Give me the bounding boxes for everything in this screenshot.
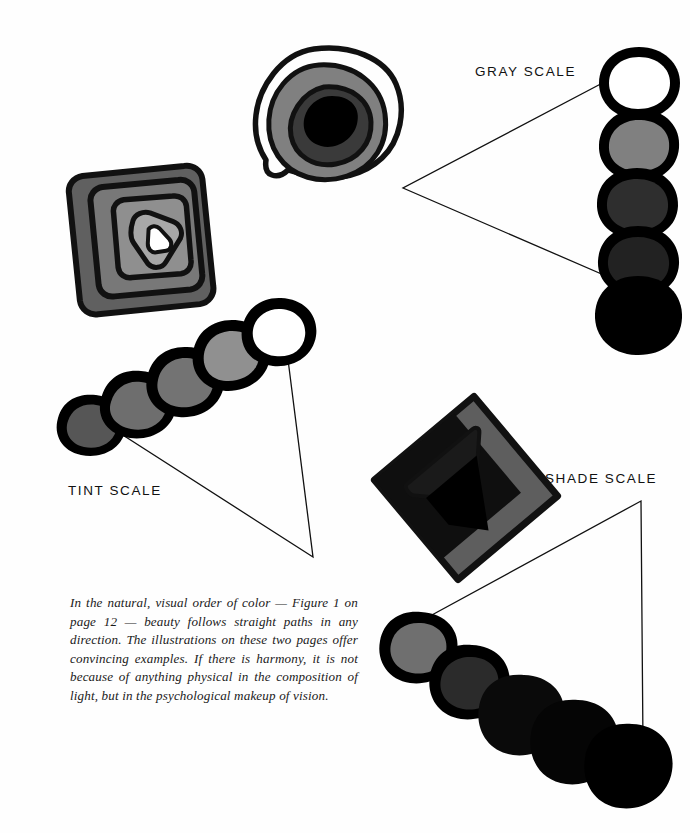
- tint-scale-artwork: [61, 157, 222, 322]
- shade-scale-artwork: [374, 396, 557, 579]
- shade-scale-step-5: [584, 724, 672, 809]
- gray-scale-label: GRAY SCALE: [475, 64, 576, 79]
- shade-scale-label: SHADE SCALE: [545, 471, 657, 486]
- gray-scale-step-1: [599, 47, 680, 119]
- tint-scale-label: TINT SCALE: [68, 483, 162, 498]
- shade-scale-chain: [379, 612, 672, 809]
- tint-scale-chain: [57, 298, 317, 456]
- gray-scale-connector: [403, 78, 620, 282]
- page-caption: In the natural, visual order of color — …: [70, 594, 358, 706]
- book-page: GRAY SCALE TINT SCALE SHADE SCALE In the…: [0, 0, 690, 833]
- gray-scale-artwork: [255, 48, 401, 180]
- gray-scale-chain: [595, 47, 682, 355]
- illustration-layer: [0, 0, 690, 833]
- tint-scale-step-5: [242, 298, 317, 366]
- gray-scale-step-5: [595, 276, 682, 355]
